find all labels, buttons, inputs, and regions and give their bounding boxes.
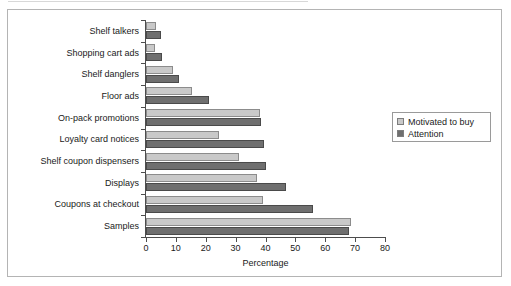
legend-item-attention: Attention [397, 128, 486, 139]
y-axis-tick [141, 129, 145, 130]
bar [146, 140, 264, 148]
x-axis-tick [206, 238, 207, 242]
bar [146, 109, 260, 117]
x-axis-tick-label: 50 [283, 243, 307, 254]
bar [146, 205, 313, 213]
x-axis-tick [146, 238, 147, 242]
bar [146, 183, 286, 191]
bar [146, 22, 156, 30]
bar [146, 87, 192, 95]
bar [146, 75, 179, 83]
chart-legend: Motivated to buy Attention [392, 112, 491, 142]
legend-item-motivated-to-buy: Motivated to buy [397, 116, 486, 127]
y-axis-tick [141, 20, 145, 21]
y-axis-category-label: Shelf danglers [81, 69, 139, 79]
x-axis-tick-label: 80 [373, 243, 397, 254]
y-axis-line [145, 20, 146, 237]
y-axis-tick [141, 215, 145, 216]
legend-swatch-icon-motivated [397, 118, 404, 125]
y-axis-category-labels: Shelf talkersShopping cart adsShelf dang… [0, 0, 139, 286]
legend-label-attention: Attention [408, 129, 444, 139]
bar [146, 174, 257, 182]
y-axis-category-label: Displays [105, 178, 139, 188]
y-axis-tick [141, 63, 145, 64]
y-axis-category-label: Shopping cart ads [66, 48, 139, 58]
y-axis-category-label: Shelf coupon dispensers [40, 156, 139, 166]
legend-swatch-icon-attention [397, 130, 404, 137]
y-axis-category-label: Samples [104, 221, 139, 231]
y-axis-tick [141, 172, 145, 173]
y-axis-tick [141, 107, 145, 108]
bar [146, 153, 239, 161]
bar [146, 131, 219, 139]
bar [146, 96, 209, 104]
y-axis-tick [141, 194, 145, 195]
bar [146, 227, 349, 235]
x-axis-tick [266, 238, 267, 242]
bar [146, 218, 351, 226]
x-axis-tick [176, 238, 177, 242]
bar [146, 162, 266, 170]
x-axis-tick-label: 60 [313, 243, 337, 254]
y-axis-category-label: Coupons at checkout [54, 199, 139, 209]
x-axis-tick-label: 70 [343, 243, 367, 254]
y-axis-category-label: Shelf talkers [89, 26, 139, 36]
x-axis-tick-label: 10 [164, 243, 188, 254]
x-axis-tick [385, 238, 386, 242]
x-axis-tick-label: 30 [224, 243, 248, 254]
x-axis-tick [236, 238, 237, 242]
bar [146, 53, 162, 61]
y-axis-tick [141, 237, 145, 238]
chart-figure: Shelf talkersShopping cart adsShelf dang… [0, 0, 511, 286]
x-axis-tick-label: 40 [254, 243, 278, 254]
bar [146, 196, 263, 204]
y-axis-tick [141, 85, 145, 86]
y-axis-tick [141, 42, 145, 43]
y-axis-category-label: Floor ads [101, 91, 139, 101]
bar [146, 66, 173, 74]
x-axis-tick [325, 238, 326, 242]
y-axis-tick [141, 150, 145, 151]
bar [146, 31, 161, 39]
bar [146, 118, 261, 126]
legend-label-motivated: Motivated to buy [408, 117, 474, 127]
y-axis-category-label: On-pack promotions [58, 113, 139, 123]
x-axis-tick-label: 0 [134, 243, 158, 254]
x-axis-tick [355, 238, 356, 242]
x-axis-tick [295, 238, 296, 242]
x-axis-title: Percentage [146, 258, 385, 268]
y-axis-category-label: Loyalty card notices [59, 134, 139, 144]
bar [146, 44, 155, 52]
x-axis-tick-label: 20 [194, 243, 218, 254]
